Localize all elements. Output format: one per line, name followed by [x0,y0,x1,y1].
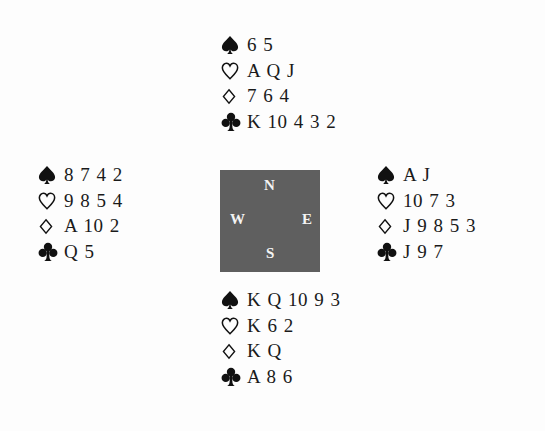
east-clubs: J 9 7 [403,241,443,263]
east-diamonds-row: J 9 8 5 3 [377,213,476,239]
club-icon [38,242,60,262]
heart-icon [38,192,60,210]
heart-icon [221,62,243,80]
compass-west: W [230,211,245,228]
south-hearts: K 6 2 [247,315,294,337]
club-icon [377,242,399,262]
south-diamonds-row: K Q [221,338,340,364]
diamond-icon [377,218,399,235]
spade-icon [221,290,243,310]
compass-east: E [302,211,312,228]
diamond-icon [221,88,243,105]
west-diamonds: A 10 2 [64,215,120,237]
west-spades-row: 8 7 4 2 [38,162,123,188]
east-hearts-row: 10 7 3 [377,188,476,214]
north-diamonds-row: 7 6 4 [221,83,336,109]
west-clubs: Q 5 [64,241,94,263]
east-spades: A J [403,164,430,186]
heart-icon [377,192,399,210]
west-diamonds-row: A 10 2 [38,213,123,239]
heart-icon [221,317,243,335]
north-clubs: K 10 4 3 2 [247,111,336,133]
east-diamonds: J 9 8 5 3 [403,215,476,237]
west-hearts: 9 8 5 4 [64,190,123,212]
west-spades: 8 7 4 2 [64,164,123,186]
west-clubs-row: Q 5 [38,239,123,265]
south-clubs-row: A 8 6 [221,364,340,390]
west-hearts-row: 9 8 5 4 [38,188,123,214]
south-hearts-row: K 6 2 [221,313,340,339]
compass-box: N W E S [220,170,320,272]
compass-north: N [264,177,275,194]
east-hand: A J 10 7 3 J 9 8 5 3 J 9 7 [377,162,476,265]
north-hand: 6 5 A Q J 7 6 4 K 10 4 3 2 [221,32,336,135]
north-hearts-row: A Q J [221,58,336,84]
east-hearts: 10 7 3 [403,190,456,212]
north-spades-row: 6 5 [221,32,336,58]
diamond-icon [221,343,243,360]
north-clubs-row: K 10 4 3 2 [221,109,336,135]
south-clubs: A 8 6 [247,366,293,388]
west-hand: 8 7 4 2 9 8 5 4 A 10 2 Q 5 [38,162,123,265]
south-diamonds: K Q [247,340,282,362]
north-diamonds: 7 6 4 [247,85,290,107]
spade-icon [221,35,243,55]
spade-icon [38,165,60,185]
south-spades: K Q 10 9 3 [247,289,340,311]
club-icon [221,112,243,132]
east-spades-row: A J [377,162,476,188]
east-clubs-row: J 9 7 [377,239,476,265]
south-hand: K Q 10 9 3 K 6 2 K Q A 8 6 [221,287,340,390]
south-spades-row: K Q 10 9 3 [221,287,340,313]
club-icon [221,367,243,387]
spade-icon [377,165,399,185]
north-spades: 6 5 [247,34,273,56]
north-hearts: A Q J [247,60,295,82]
diamond-icon [38,218,60,235]
compass-south: S [266,245,274,262]
